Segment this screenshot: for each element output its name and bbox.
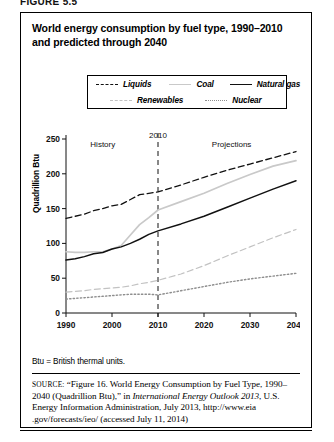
line-dashed-light-icon — [110, 100, 132, 101]
y-axis-tick: 100 — [46, 238, 60, 248]
y-axis-tick: 0 — [55, 308, 60, 318]
source-note: SOURCE: “Figure 16. World Energy Consump… — [32, 379, 304, 425]
chart-plot-area: Quadrillion Btu 050100150200250199020002… — [32, 117, 300, 347]
legend-label-coal: Coal — [196, 80, 213, 89]
figure-caption: FIGURE 5.5 — [20, 0, 77, 7]
btu-note: Btu = British thermal units. — [32, 357, 125, 366]
chart-annotation: History — [90, 140, 115, 149]
series-line-liquids — [66, 152, 296, 219]
series-line-renewables — [66, 229, 296, 292]
x-axis-tick: 2040 — [287, 320, 300, 330]
series-line-nuclear — [66, 273, 296, 299]
y-axis-tick: 50 — [51, 273, 61, 283]
y-axis-tick: 250 — [46, 134, 60, 144]
legend-label-natural-gas: Natural gas — [257, 80, 301, 89]
line-solid-light-icon — [169, 84, 191, 85]
source-line-1: “Figure 16. World Energy Consumption by … — [67, 379, 262, 389]
legend-item-natural-gas: Natural gas — [230, 80, 301, 89]
legend-item-liquids: Liquids — [96, 80, 151, 89]
line-dashed-icon — [96, 84, 118, 85]
source-publication: International Energy Outlook 2013 — [132, 391, 259, 401]
y-axis-tick: 150 — [46, 204, 60, 214]
source-label: SOURCE: — [32, 380, 65, 389]
legend-item-renewables: Renewables — [110, 96, 183, 105]
line-dotted-icon — [205, 100, 227, 101]
x-axis-tick: 2010 — [149, 320, 168, 330]
chart-annotation: 2010 — [149, 131, 167, 140]
source-line-2b: , — [259, 391, 261, 401]
chart-legend: Liquids Coal Natural gas Renewables — [87, 75, 287, 109]
x-axis-tick: 2000 — [103, 320, 122, 330]
figure-page: FIGURE 5.5 World energy consumption by f… — [0, 0, 334, 442]
legend-row-2: Renewables Nuclear — [88, 92, 308, 109]
page-bottom-rule — [20, 430, 312, 431]
legend-item-nuclear: Nuclear — [205, 96, 261, 105]
chart-annotation: Projections — [212, 140, 252, 149]
legend-row-1: Liquids Coal Natural gas — [88, 76, 294, 93]
x-axis-tick: 2020 — [195, 320, 214, 330]
source-divider — [32, 373, 300, 374]
legend-label-renewables: Renewables — [137, 96, 183, 105]
legend-item-coal: Coal — [169, 80, 213, 89]
series-line-natural-gas — [66, 181, 296, 260]
x-axis-tick: 2030 — [241, 320, 260, 330]
chart-title: World energy consumption by fuel type, 1… — [32, 22, 300, 49]
series-line-coal — [66, 161, 296, 253]
line-solid-icon — [230, 84, 252, 85]
source-line-4: .gov/forecasts/ieo/ (accessed July 11, 2… — [32, 414, 188, 424]
figure-box: World energy consumption by fuel type, 1… — [20, 12, 312, 428]
legend-label-liquids: Liquids — [123, 80, 151, 89]
legend-label-nuclear: Nuclear — [232, 96, 261, 105]
x-axis-tick: 1990 — [57, 320, 76, 330]
chart-svg: 050100150200250199020002010202020302040H… — [32, 117, 300, 347]
y-axis-tick: 200 — [46, 169, 60, 179]
